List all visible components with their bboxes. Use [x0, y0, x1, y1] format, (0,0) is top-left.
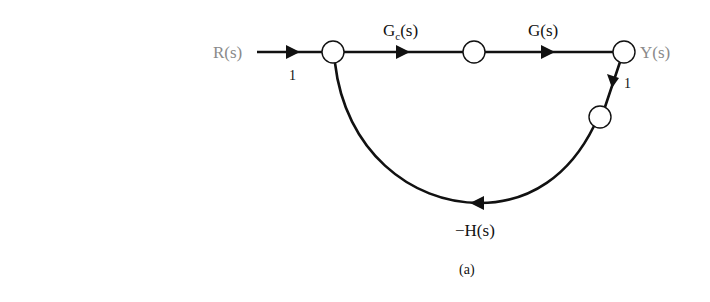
- controller-gain-label: Gc(s): [383, 21, 418, 42]
- arrow-left-icon: [470, 196, 484, 210]
- node-control-signal: [463, 41, 485, 63]
- node-output: [613, 41, 635, 63]
- controller-gain-tail: (s): [400, 21, 418, 40]
- arrow-right-icon: [396, 45, 410, 59]
- arrow-down-icon: [607, 74, 619, 88]
- node-summing: [322, 41, 344, 63]
- node-feedback: [589, 106, 611, 128]
- feedback-gain-label: −H(s): [455, 221, 495, 240]
- input-gain-label: 1: [289, 68, 296, 83]
- figure-caption: (a): [459, 262, 475, 278]
- input-label: R(s): [213, 43, 242, 62]
- controller-gain-main: G: [383, 21, 395, 40]
- feedback-branch: [335, 63, 594, 203]
- plant-gain-label: G(s): [528, 21, 558, 40]
- output-label: Y(s): [640, 43, 670, 62]
- signal-flow-graph: R(s) Y(s) 1 Gc(s) G(s) 1 −H(s) (a): [0, 0, 710, 302]
- output-tap-gain-label: 1: [624, 76, 631, 91]
- arrow-right-icon: [541, 45, 555, 59]
- arrow-right-icon: [286, 45, 300, 59]
